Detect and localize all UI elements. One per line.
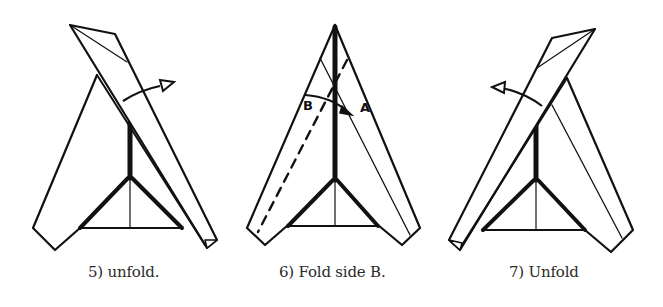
step-6-panel: B A 6) Fold side B.	[230, 0, 440, 307]
step-6-airplane-drawing: B A	[230, 0, 440, 260]
step-7-airplane-drawing	[430, 0, 663, 260]
step-6-caption: 6) Fold side B.	[279, 263, 385, 281]
label-b: B	[303, 98, 313, 113]
label-a: A	[360, 100, 370, 115]
step-5-caption: 5) unfold.	[88, 263, 159, 281]
step-5-airplane-drawing	[0, 0, 230, 260]
step-7-panel: 7) Unfold	[430, 0, 663, 307]
step-7-caption: 7) Unfold	[509, 263, 579, 281]
step-5-panel: 5) unfold.	[0, 0, 230, 307]
